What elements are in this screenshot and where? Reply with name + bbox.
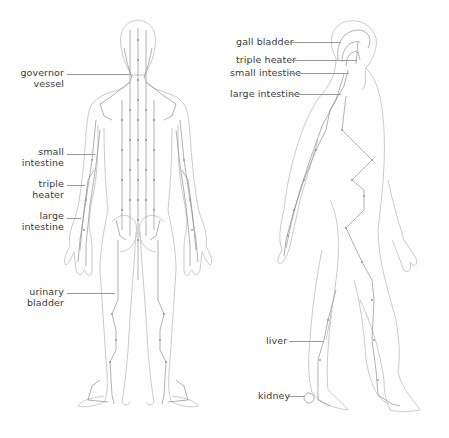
label-triple-heater-side: triple heater [236, 54, 296, 65]
label-line: intestine [12, 221, 64, 232]
leader-small-intestine-side [289, 73, 349, 74]
side-view-meridians [284, 30, 400, 406]
label-large-intestine: large intestine [12, 210, 64, 232]
label-line: heater [12, 189, 64, 200]
label-line: intestine [12, 157, 64, 168]
label-line: triple [12, 178, 64, 189]
back-view-meridians [78, 28, 198, 404]
label-kidney: kidney [258, 390, 290, 401]
leader-gall-bladder [289, 42, 341, 43]
label-small-intestine: small intestine [12, 146, 64, 168]
kidney-point-marker [304, 393, 314, 403]
leader-large-intestine-side [289, 94, 341, 95]
side-view-figure [278, 21, 420, 412]
leader-kidney [289, 396, 305, 397]
label-line: bladder [12, 297, 64, 308]
label-line: small [12, 146, 64, 157]
leader-small-intestine [67, 154, 95, 155]
label-governor-vessel: governor vessel [12, 67, 64, 89]
label-line: governor [12, 67, 64, 78]
label-line: large [12, 210, 64, 221]
leader-governor-vessel [67, 74, 131, 75]
leader-liver [289, 341, 323, 342]
label-gall-bladder: gall bladder [236, 36, 294, 47]
label-line: vessel [12, 78, 64, 89]
label-triple-heater: triple heater [12, 178, 64, 200]
label-urinary-bladder: urinary bladder [12, 286, 64, 308]
label-liver: liver [266, 335, 287, 346]
leader-triple-heater [67, 185, 85, 186]
meridian-diagram [0, 0, 449, 438]
leader-large-intestine [67, 218, 81, 219]
leader-urinary-bladder [67, 293, 115, 294]
label-line: urinary [12, 286, 64, 297]
leader-triple-heater-side [289, 60, 357, 61]
